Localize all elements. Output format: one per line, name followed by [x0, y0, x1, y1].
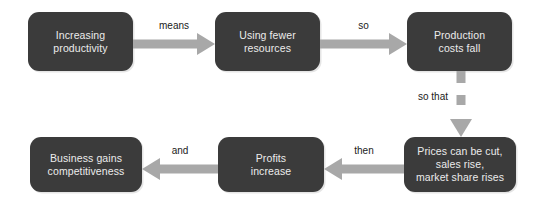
node-label: Increasing productivity [53, 29, 107, 55]
arrow-head [450, 119, 472, 137]
node-label: Business gains competitiveness [48, 152, 125, 178]
arrow-shaft-upper [457, 71, 466, 83]
arrow-and [142, 158, 218, 180]
arrow-head [142, 158, 160, 180]
arrow-so [320, 33, 407, 55]
arrow-shaft-lower [457, 95, 466, 105]
arrow-shaft [342, 165, 404, 174]
node-business-gains-competitiveness[interactable]: Business gains competitiveness [30, 137, 142, 192]
node-label: Using fewer resources [239, 29, 296, 55]
arrow-head [389, 33, 407, 55]
edge-label-so-that: so that [402, 91, 448, 103]
node-profits-increase[interactable]: Profits increase [218, 137, 324, 192]
arrow-head [197, 33, 215, 55]
node-label: Prices can be cut, sales rise, market sh… [416, 145, 504, 184]
arrow-shaft [160, 165, 218, 174]
node-label: Profits increase [251, 152, 292, 178]
arrow-means [133, 33, 215, 55]
node-prices-cut-sales-rise[interactable]: Prices can be cut, sales rise, market sh… [404, 137, 516, 192]
arrow-shaft [320, 40, 389, 49]
arrow-then [324, 158, 404, 180]
arrow-so-that [450, 71, 472, 137]
edge-label-and: and [142, 145, 218, 157]
flowchart-canvas: Increasing productivity Using fewer reso… [0, 0, 540, 209]
node-increasing-productivity[interactable]: Increasing productivity [28, 12, 133, 71]
node-production-costs-fall[interactable]: Production costs fall [407, 12, 512, 71]
edge-label-then: then [324, 145, 404, 157]
node-using-fewer-resources[interactable]: Using fewer resources [215, 12, 320, 71]
arrow-head [324, 158, 342, 180]
edge-label-so: so [320, 20, 407, 32]
node-label: Production costs fall [434, 29, 485, 55]
edge-label-means: means [133, 20, 215, 32]
arrow-shaft [133, 40, 197, 49]
